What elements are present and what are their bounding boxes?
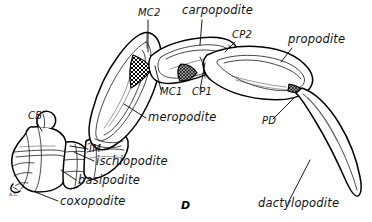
- segment-propodite: [203, 46, 313, 99]
- label-im: IM: [89, 143, 101, 154]
- label-mc2: MC2: [138, 7, 161, 18]
- label-coxopodite: coxopodite: [60, 194, 126, 208]
- leader-pd: [273, 98, 294, 119]
- label-carpopodite: carpopodite: [182, 3, 253, 17]
- leg-anatomy-drawing: carpopodite propodite meropodite ischiop…: [0, 0, 372, 222]
- label-ac: A.C.: [9, 192, 19, 197]
- label-basipodite: basipodite: [78, 173, 140, 187]
- label-pd: PD: [262, 115, 276, 126]
- label-meropodite: meropodite: [148, 110, 216, 124]
- segment-meropodite: [89, 32, 161, 150]
- segment-dactylopodite: [296, 88, 361, 196]
- label-cp1: CP1: [192, 86, 212, 97]
- label-ischiopodite: ischiopodite: [96, 154, 168, 168]
- leader-coxopodite: [35, 192, 58, 201]
- figure-container: carpopodite propodite meropodite ischiop…: [0, 0, 372, 222]
- label-mc1: MC1: [160, 86, 183, 97]
- segment-coxopodite: [11, 111, 66, 192]
- label-propodite: propodite: [287, 32, 345, 46]
- plate-label: D: [181, 199, 190, 212]
- label-cb: CB: [28, 110, 42, 121]
- label-cp2: CP2: [232, 29, 252, 40]
- label-dactylopodite: dactylopodite: [258, 196, 339, 210]
